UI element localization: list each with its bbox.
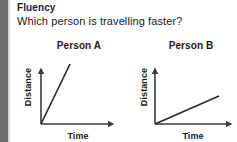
x-axis-label-person-a: Time (14, 131, 122, 141)
question-text: Which person is travelling faster? (17, 14, 227, 28)
data-line-person-a (41, 64, 70, 124)
x-axis-label-person-b: Time (128, 131, 236, 141)
data-line-person-b (155, 96, 219, 124)
worksheet-page: Fluency Which person is travelling faste… (0, 0, 237, 142)
graph-canvas-person-a (14, 48, 122, 128)
graph-person-a: Person A Distance Time (14, 38, 122, 142)
header: Fluency Which person is travelling faste… (17, 1, 227, 28)
graph-canvas-person-b (128, 48, 236, 128)
page-edge-shadow (8, 0, 10, 142)
page-title: Fluency (17, 1, 227, 14)
graph-person-b: Person B Distance Time (128, 38, 236, 142)
page-edge-strip (0, 0, 8, 142)
